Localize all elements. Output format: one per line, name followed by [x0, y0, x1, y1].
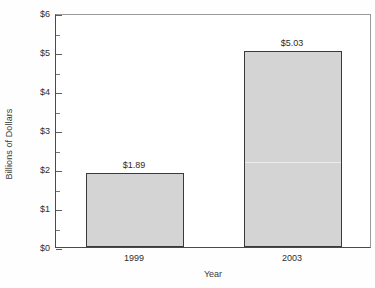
- bar-chart-figure: Billions of Dollars Year $0$1$2$3$4$5$6$…: [0, 0, 375, 288]
- plot-area: [55, 14, 371, 248]
- y-axis-tick-minor: [56, 152, 60, 153]
- y-axis-tick-minor: [56, 191, 60, 192]
- x-axis-tick-label: 1999: [124, 253, 144, 263]
- y-axis-tick-label: $6: [0, 9, 55, 19]
- y-axis-tick-label: $2: [0, 165, 55, 175]
- y-axis-tick-label: $0: [0, 243, 55, 253]
- bar: [86, 173, 185, 247]
- bar-value-label: $1.89: [123, 160, 146, 170]
- y-axis-tick-major: [56, 132, 62, 133]
- y-axis-tick-label: $4: [0, 87, 55, 97]
- x-axis-tick-label: 2003: [282, 253, 302, 263]
- y-axis-tick-label: $1: [0, 204, 55, 214]
- y-axis-tick-major: [56, 93, 62, 94]
- y-axis-tick-major: [56, 54, 62, 55]
- bar-value-label: $5.03: [281, 38, 304, 48]
- y-axis-tick-major: [56, 249, 62, 250]
- y-axis-tick-major: [56, 171, 62, 172]
- y-axis-tick-minor: [56, 113, 60, 114]
- y-axis-tick-label: $3: [0, 126, 55, 136]
- y-axis-tick-minor: [56, 230, 60, 231]
- bar: [244, 51, 343, 247]
- y-axis-tick-major: [56, 15, 62, 16]
- scan-artifact: [245, 162, 342, 163]
- y-axis-tick-minor: [56, 35, 60, 36]
- y-axis-tick-major: [56, 210, 62, 211]
- x-axis-title: Year: [55, 269, 371, 279]
- y-axis-tick-minor: [56, 74, 60, 75]
- y-axis-tick-label: $5: [0, 48, 55, 58]
